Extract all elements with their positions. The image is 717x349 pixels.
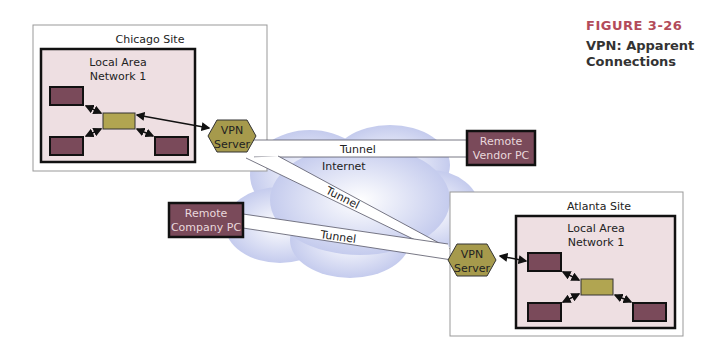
svg-text:Company PC: Company PC xyxy=(171,221,241,234)
svg-text:Server: Server xyxy=(214,138,251,151)
chicago-switch xyxy=(103,113,135,129)
atlanta-switch xyxy=(581,279,613,295)
figure-number: FIGURE 3-26 xyxy=(586,18,682,33)
svg-text:Network 1: Network 1 xyxy=(568,236,624,249)
chicago-host-3 xyxy=(155,137,188,155)
chicago-host-1 xyxy=(50,87,83,105)
svg-text:Vendor PC: Vendor PC xyxy=(473,149,530,162)
svg-text:Network 1: Network 1 xyxy=(90,70,146,83)
chicago-host-2 xyxy=(50,137,83,155)
svg-text:Remote: Remote xyxy=(480,135,523,148)
chicago-vpn-server: VPN Server xyxy=(208,120,256,152)
atlanta-lan-label: Local Area xyxy=(567,222,624,235)
chicago-site-label: Chicago Site xyxy=(116,33,185,46)
chicago-lan-label: Local Area xyxy=(89,56,146,69)
remote-vendor-pc: Remote Vendor PC xyxy=(467,131,535,165)
svg-text:Remote: Remote xyxy=(185,207,228,220)
atlanta-host-1 xyxy=(528,253,561,271)
svg-text:VPN: VPN xyxy=(461,248,483,261)
atlanta-host-3 xyxy=(633,303,666,321)
svg-text:VPN: VPN xyxy=(221,124,243,137)
remote-company-pc: Remote Company PC xyxy=(169,203,243,237)
svg-text:Tunnel: Tunnel xyxy=(339,143,376,156)
atlanta-vpn-server: VPN Server xyxy=(448,244,496,276)
figure-title: VPN: Apparent Connections xyxy=(586,38,706,70)
internet-label: Internet xyxy=(322,160,366,173)
atlanta-site-label: Atlanta Site xyxy=(567,200,631,213)
atlanta-host-2 xyxy=(528,303,561,321)
svg-text:Server: Server xyxy=(454,262,491,275)
tunnel-vendor: Tunnel xyxy=(254,140,466,157)
